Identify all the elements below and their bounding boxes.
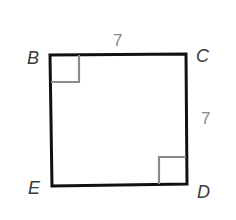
vertex-label-c: C <box>196 46 210 66</box>
vertex-label-d: D <box>197 182 210 202</box>
square-outline <box>50 54 187 186</box>
right-angle-marker-d <box>159 157 186 184</box>
vertex-label-e: E <box>28 178 41 198</box>
diagram-canvas: B C D E 7 7 <box>0 0 236 220</box>
side-length-bc: 7 <box>113 31 122 50</box>
side-length-cd: 7 <box>201 109 210 128</box>
vertex-label-b: B <box>27 48 39 68</box>
right-angle-marker-b <box>51 55 79 82</box>
